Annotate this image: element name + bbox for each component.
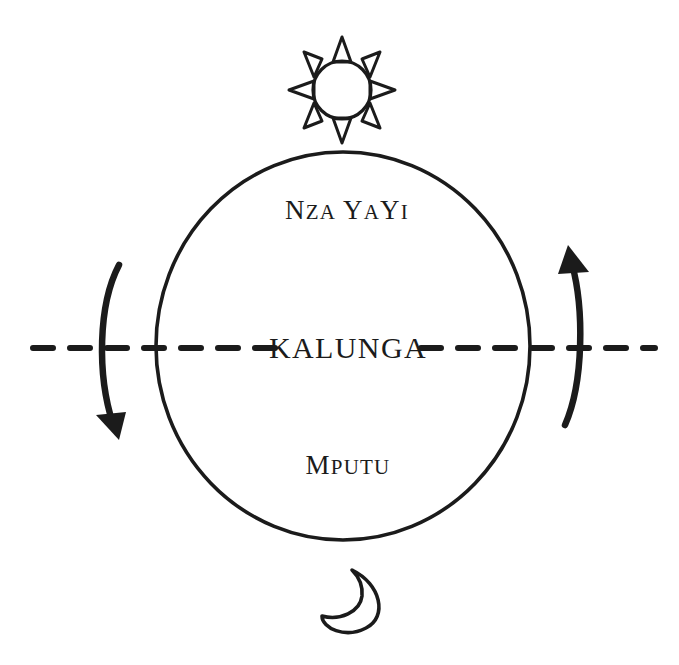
cosmogram-diagram: NZA YAYI KALUNGA MPUTU <box>0 0 679 665</box>
right-arrow-head <box>558 245 589 274</box>
moon-shape <box>322 570 379 633</box>
crescent-moon-icon <box>322 570 379 633</box>
label-upper-world-a: A <box>364 200 380 224</box>
label-upper-world-y1: Y <box>343 195 364 225</box>
sun-ray-w <box>289 81 314 99</box>
label-lower-world-putu: PUTU <box>331 455 391 479</box>
right-arrow-shaft <box>565 264 580 425</box>
sun-ray-s <box>333 118 351 143</box>
curved-arrow-up-icon <box>558 245 589 425</box>
label-lower-world-m: M <box>306 450 331 480</box>
label-lower-world: MPUTU <box>306 450 391 480</box>
sun-icon <box>289 37 395 143</box>
curved-arrow-down-icon <box>96 265 126 440</box>
label-kalunga: KALUNGA <box>269 331 427 364</box>
label-upper-world-n: N <box>285 195 306 225</box>
label-upper-world: NZA YAYI <box>285 195 409 225</box>
sun-disc <box>313 61 371 119</box>
cosmogram-canvas: NZA YAYI KALUNGA MPUTU <box>0 0 679 665</box>
sun-ray-n <box>333 37 351 62</box>
left-arrow-shaft <box>102 265 119 424</box>
label-upper-world-i: I <box>401 200 409 224</box>
label-upper-world-za: ZA <box>306 200 336 224</box>
label-upper-world-y2: Y <box>380 195 401 225</box>
left-arrow-head <box>96 412 126 440</box>
sun-ray-e <box>370 81 395 99</box>
